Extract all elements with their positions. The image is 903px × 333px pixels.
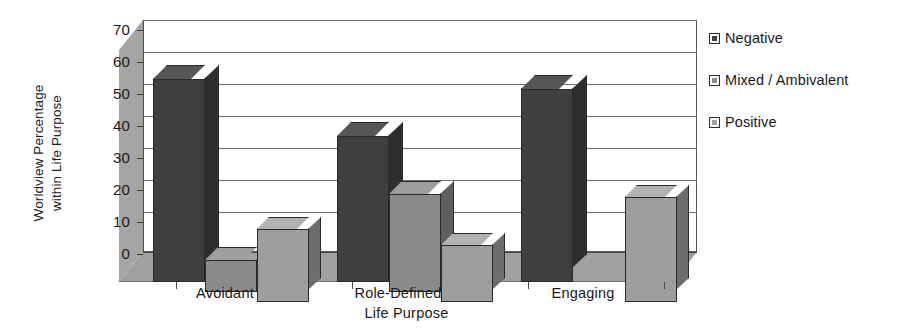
bar-front-face	[521, 89, 573, 282]
gridline-60	[143, 52, 697, 53]
legend-item-positive: Positive	[709, 114, 899, 130]
y-axis-line	[143, 20, 144, 253]
bar-side-face	[204, 65, 219, 268]
y-tick-mark-70	[137, 30, 143, 31]
bar-side-face	[676, 185, 689, 290]
legend-label-negative: Negative	[725, 30, 783, 46]
y-tick-label-70: 70	[100, 21, 130, 38]
y-tick-label-0: 0	[100, 245, 130, 262]
y-tick-mark-30	[137, 158, 143, 159]
bar-side-face	[308, 217, 321, 290]
y-tick-mark-60	[137, 62, 143, 63]
bar-front-face	[153, 79, 205, 282]
bar-front-face	[337, 136, 389, 282]
x-tick-mark-end	[664, 282, 665, 289]
y-tick-mark-0	[137, 254, 143, 255]
y-tick-label-20: 20	[100, 181, 130, 198]
y-tick-mark-20	[137, 190, 143, 191]
y-tick-label-30: 30	[100, 149, 130, 166]
x-axis-title: Life Purpose	[0, 305, 903, 321]
bar-role-defined-negative	[337, 136, 389, 282]
bar-engaging-negative	[521, 89, 573, 282]
chart-figure: Worldview Percentagewithin Life Purpose	[0, 0, 903, 333]
x-category-label-role-defined: Role-Defined	[318, 285, 478, 301]
x-category-label-engaging: Engaging	[508, 285, 658, 301]
gridline-30	[143, 148, 697, 149]
y-tick-label-10: 10	[100, 213, 130, 230]
bar-avoidant-negative	[153, 79, 205, 282]
legend-swatch-negative	[709, 33, 720, 44]
legend-label-positive: Positive	[725, 114, 777, 130]
bar-role-defined-mixed	[389, 194, 441, 292]
y-tick-label-60: 60	[100, 53, 130, 70]
y-tick-mark-10	[137, 222, 143, 223]
gridline-40	[143, 116, 697, 117]
y-tick-label-40: 40	[100, 117, 130, 134]
chart-legend: Negative Mixed / Ambivalent Positive	[709, 30, 899, 156]
y-tick-mark-50	[137, 94, 143, 95]
bar-side-face	[572, 75, 587, 268]
legend-item-negative: Negative	[709, 30, 899, 46]
y-tick-mark-40	[137, 126, 143, 127]
gridline-70	[143, 20, 697, 21]
legend-label-mixed-ambivalent: Mixed / Ambivalent	[725, 72, 849, 88]
legend-item-mixed-ambivalent: Mixed / Ambivalent	[709, 72, 899, 88]
gridline-50	[143, 84, 697, 85]
legend-swatch-positive	[709, 117, 720, 128]
legend-swatch-mixed-ambivalent	[709, 75, 720, 86]
y-tick-label-50: 50	[100, 85, 130, 102]
x-axis-title-text: Life Purpose	[365, 305, 449, 321]
gridline-20	[143, 180, 697, 181]
x-category-label-avoidant: Avoidant	[150, 285, 300, 301]
bar-front-face	[389, 194, 441, 292]
